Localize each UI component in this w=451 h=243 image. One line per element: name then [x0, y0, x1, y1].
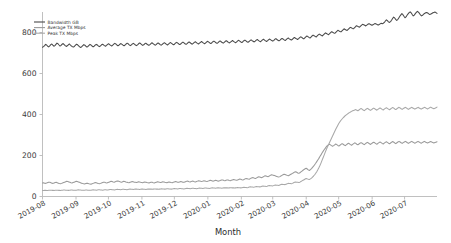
y-tick-label: 200	[22, 151, 37, 160]
x-axis-title: Month	[215, 227, 241, 237]
y-tick-label: 600	[22, 69, 37, 78]
legend-label-0: Bandwidth GB	[48, 20, 79, 25]
legend-label-2: Peak TX Mbps	[48, 31, 79, 36]
y-tick-label: 400	[22, 110, 37, 119]
line-chart: 0200400600800 2019-082019-092019-102019-…	[0, 0, 451, 243]
chart-figure: 0200400600800 2019-082019-092019-102019-…	[0, 0, 451, 243]
legend-label-1: Average TX Mbps	[48, 25, 87, 30]
y-tick-label: 0	[32, 192, 37, 201]
